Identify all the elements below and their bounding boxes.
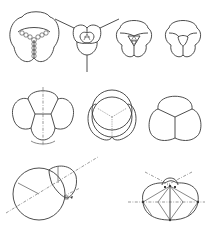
panel-three-cell-curved-triangle: [165, 21, 200, 57]
panel-triangular-junction: [55, 19, 119, 72]
diagram-canvas: [0, 0, 216, 227]
bubble-geometry-diagram: [0, 0, 216, 227]
panel-beaded-three-cell: [10, 12, 59, 62]
panel-four-cell-axis: [12, 87, 73, 146]
panel-double-bubble: [6, 157, 98, 220]
panel-three-cell-small-triangle: [116, 21, 151, 57]
panel-overlapping-circles: [88, 90, 136, 140]
panel-three-cell-y-junction: [149, 96, 201, 140]
panel-lens-cluster: [128, 172, 205, 221]
